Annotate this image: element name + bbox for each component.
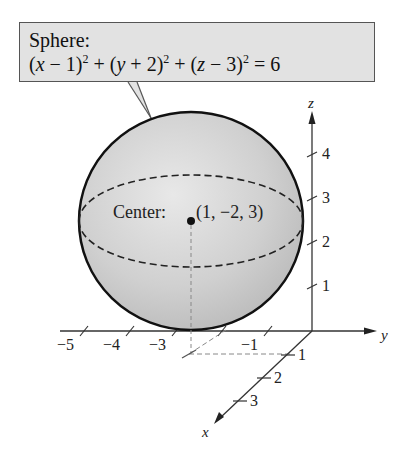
eq-var-x: x [36,53,45,75]
equation-callout: Sphere: (x − 1)2 + (y + 2)2 + (z − 3)2 =… [19,22,375,82]
x-tick-2: 2 [274,370,282,386]
eq-part: + ( [89,53,117,75]
x-axis [214,331,312,424]
z-tick-4: 4 [322,146,330,162]
y-axis-label: y [381,327,388,343]
x-tick-1: 1 [298,347,306,363]
callout-title: Sphere: [29,29,374,51]
z-tick-2: 2 [322,234,330,250]
z-axis-arrow-icon [309,111,316,124]
center-coords: (1, −2, 3) [196,203,263,221]
sphere-equation: (x − 1)2 + (y + 2)2 + (z − 3)2 = 6 [29,51,374,77]
x-axis-label: x [202,424,209,440]
eq-part: = 6 [249,53,280,75]
callout-pointer [128,82,151,118]
sphere-diagram: Sphere: (x − 1)2 + (y + 2)2 + (z − 3)2 =… [0,0,412,463]
eq-part: + ( [169,53,197,75]
y-tick-neg4: −4 [103,337,120,353]
x-axis-arrow-icon [214,412,224,424]
z-axis-label: z [308,95,314,111]
y-axis-arrow-icon [364,328,377,335]
y-tick-neg3: −3 [149,337,166,353]
z-tick-3: 3 [322,190,330,206]
eq-part: − 3) [205,53,243,75]
z-axis [307,111,317,331]
center-label: Center: [113,203,166,221]
eq-part: ( [29,53,36,75]
eq-part: − 1) [45,53,83,75]
y-tick-neg5: −5 [57,337,74,353]
z-tick-1: 1 [322,278,330,294]
eq-var-z: z [197,53,205,75]
y-tick-neg1: −1 [241,337,258,353]
eq-part: + 2) [125,53,163,75]
x-tick-3: 3 [250,393,258,409]
center-point [187,217,195,225]
